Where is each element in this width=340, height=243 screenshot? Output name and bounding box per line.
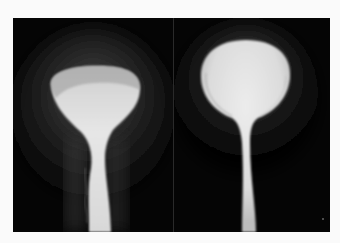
radiograph-panel-right [174,18,330,232]
radiograph-figure [13,18,330,232]
bladder-image-right [174,18,330,232]
bladder-image-left [13,18,173,232]
radiograph-panel-left [13,18,173,232]
